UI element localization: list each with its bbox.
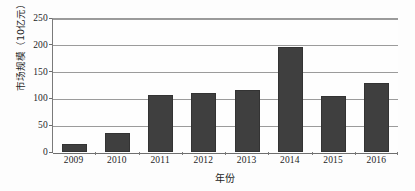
bar-slot [96,19,139,152]
bar-slot [182,19,225,152]
bar-2013 [235,90,260,152]
bar-2015 [321,96,346,152]
x-axis-tick-label: 2013 [225,155,268,169]
y-axis-tick-label: 50 [4,120,48,130]
bar-2012 [191,93,216,152]
bar-series [53,19,398,152]
bar-slot [139,19,182,152]
chart-figure: 050100150200250 市场规模（10亿元） 2009201020112… [0,0,415,191]
y-axis-tick-label: 0 [4,147,48,157]
bar-slot [226,19,269,152]
bar-2016 [364,83,389,152]
bar-slot [269,19,312,152]
bar-slot [355,19,398,152]
bar-2009 [62,144,87,152]
x-axis-tick-label: 2010 [95,155,138,169]
x-axis-tick-label: 2009 [52,155,95,169]
x-axis-tick-label: 2011 [139,155,182,169]
bar-2011 [148,95,173,152]
x-axis-tick-labels: 20092010201120122013201420152016 [52,155,398,169]
x-axis-tick-label: 2014 [268,155,311,169]
bar-slot [312,19,355,152]
bar-2010 [105,133,130,152]
x-axis-tick-label: 2012 [182,155,225,169]
y-axis-title: 市场规模（10亿元） [13,0,27,103]
plot-area [52,18,398,152]
bar-slot [53,19,96,152]
bar-2014 [278,47,303,152]
x-axis-tick-label: 2015 [312,155,355,169]
x-axis-title: 年份 [52,170,398,185]
x-axis-tick-label: 2016 [355,155,398,169]
